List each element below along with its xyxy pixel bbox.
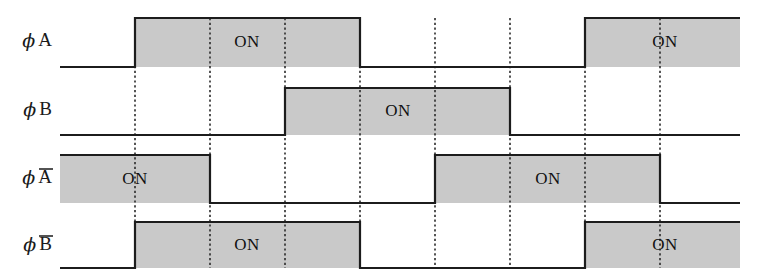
on-label: ON bbox=[234, 235, 260, 254]
on-label: ON bbox=[652, 235, 678, 254]
on-label: ON bbox=[122, 169, 148, 188]
timing-diagram: ONONONONONONON ϕAϕBϕAϕB bbox=[0, 0, 759, 274]
phi-symbol: ϕ bbox=[23, 98, 36, 120]
signal-letter: B bbox=[39, 98, 52, 119]
on-block-group bbox=[60, 18, 740, 268]
on-label: ON bbox=[234, 32, 260, 51]
row-label-group: ϕAϕBϕAϕB bbox=[22, 29, 53, 255]
signal-letter: A bbox=[38, 29, 52, 50]
phi-symbol: ϕ bbox=[22, 29, 35, 51]
row-label-phi-a: ϕA bbox=[22, 29, 52, 51]
on-label: ON bbox=[535, 169, 561, 188]
phi-symbol: ϕ bbox=[23, 233, 36, 255]
on-label: ON bbox=[385, 101, 411, 120]
phi-symbol: ϕ bbox=[22, 166, 35, 188]
on-label: ON bbox=[652, 32, 678, 51]
timing-diagram-canvas: ONONONONONONON ϕAϕBϕAϕB bbox=[0, 0, 759, 274]
row-label-phi-b: ϕB bbox=[23, 98, 52, 120]
